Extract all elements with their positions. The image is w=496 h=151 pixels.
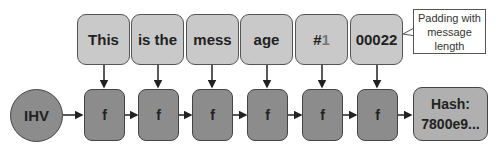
compression-function-1: f — [84, 89, 125, 141]
hash-label: Hash: — [431, 94, 470, 114]
message-block-4: age — [240, 14, 293, 65]
callout-line: Padding with — [414, 11, 485, 25]
hash-value: 7800e9... — [421, 114, 479, 134]
padding-block: 00022 — [350, 14, 403, 65]
message-block-5: #1 — [295, 14, 348, 65]
callout-line: message — [414, 25, 485, 39]
callout-line: length — [414, 39, 485, 53]
compression-function-6: f — [357, 89, 398, 141]
message-block-3: mess — [186, 14, 239, 65]
compression-function-4: f — [247, 89, 288, 141]
compression-function-3: f — [192, 89, 233, 141]
padding-callout: Padding with message length — [413, 9, 486, 54]
compression-function-5: f — [302, 89, 343, 141]
block-text: # — [313, 31, 321, 48]
hash-output: Hash: 7800e9... — [413, 87, 488, 141]
message-block-1: This — [77, 14, 130, 65]
ihv-node: IHV — [10, 89, 63, 142]
compression-function-2: f — [138, 89, 179, 141]
block-suffix: 1 — [322, 31, 330, 48]
message-block-2: is the — [131, 14, 184, 65]
